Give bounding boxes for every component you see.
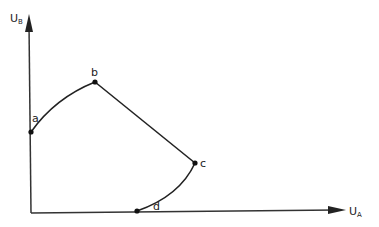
segment-c-d <box>137 163 195 211</box>
y-axis-label: U <box>10 12 18 25</box>
point-d-label: d <box>153 200 160 213</box>
x-axis <box>31 210 336 213</box>
point-a <box>28 129 33 134</box>
segment-b-c <box>95 82 195 163</box>
point-a-label: a <box>32 112 39 125</box>
utility-possibility-diagram: U B U A a b c d <box>0 0 379 227</box>
point-d <box>134 208 139 213</box>
x-axis-label-subscript: A <box>357 211 362 219</box>
point-c <box>192 160 197 165</box>
segment-a-b <box>31 82 95 132</box>
point-b <box>92 79 97 84</box>
y-axis-arrowhead-icon <box>25 14 33 32</box>
y-axis-label-subscript: B <box>18 18 23 26</box>
point-c-label: c <box>200 157 206 170</box>
point-b-label: b <box>91 66 98 79</box>
x-axis-arrowhead-icon <box>328 206 346 214</box>
y-axis <box>29 24 31 213</box>
x-axis-label: U <box>349 205 357 218</box>
